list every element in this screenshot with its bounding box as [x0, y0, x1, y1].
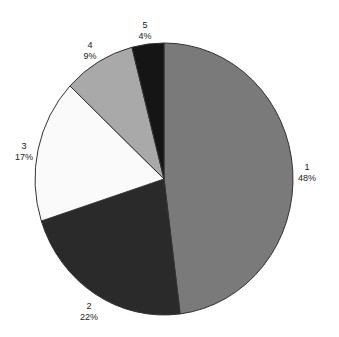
slice-label-3: 3 17%	[4, 141, 44, 163]
slice-name: 4	[70, 40, 110, 51]
slice-name: 5	[125, 20, 165, 31]
pie-slice-1	[164, 43, 293, 314]
slice-label-4: 4 9%	[70, 40, 110, 62]
slice-name: 3	[4, 141, 44, 152]
slice-label-1: 1 48%	[287, 162, 327, 184]
slice-label-2: 2 22%	[69, 301, 109, 323]
slice-percent: 9%	[70, 51, 110, 62]
slice-percent: 17%	[4, 152, 44, 163]
slice-percent: 48%	[287, 173, 327, 184]
slice-label-5: 5 4%	[125, 20, 165, 42]
slice-percent: 22%	[69, 312, 109, 323]
slice-name: 2	[69, 301, 109, 312]
slice-name: 1	[287, 162, 327, 173]
slice-percent: 4%	[125, 31, 165, 42]
